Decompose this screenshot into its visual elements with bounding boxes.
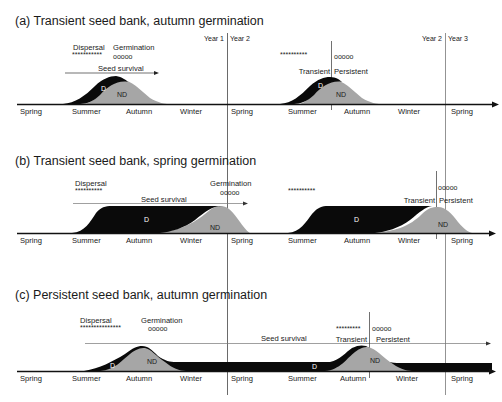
panel-a-title: (a) Transient seed bank, autumn germinat… [15,14,264,28]
seed-bank-diagram: Year 1 Year 2 Year 2 Year 3 (a) Transien… [0,0,502,402]
svg-text:Summer: Summer [72,236,101,245]
svg-text:Autumn: Autumn [126,374,152,383]
svg-text:Spring: Spring [231,236,253,245]
svg-text:Autumn: Autumn [126,107,152,116]
nd-label-2: ND [336,91,346,98]
germination-label: Germination [113,43,154,52]
panel-c: (c) Persistent seed bank, autumn germina… [15,288,496,383]
panel-b-title: (b) Transient seed bank, spring germinat… [15,154,256,168]
svg-text:Autumn: Autumn [340,374,366,383]
persistent-label: Persistent [376,335,411,344]
nd-label-1: ND [117,91,127,98]
nd-label-1: ND [147,358,157,365]
svg-text:Spring: Spring [20,107,42,116]
svg-text:Spring: Spring [451,374,473,383]
seed-survival-label: Seed survival [98,64,144,73]
germination-mark: ooooo [113,53,133,60]
transient-label: Transient [299,67,331,76]
transient-label: Transient [336,335,368,344]
germination-mark: ooooo [220,189,240,196]
d-label-2: D [318,82,323,89]
year1-label: Year 1 [204,35,224,42]
svg-text:Spring: Spring [231,107,253,116]
panel-c-title: (c) Persistent seed bank, autumn germina… [15,288,267,302]
season-labels-b: Spring Summer Autumn Winter Spring Summe… [20,236,473,245]
year2-dispersal-mark: ********** [280,51,308,58]
persistent-label: Persistent [334,67,369,76]
year2-dispersal-mark: ********** [288,187,316,194]
svg-text:Summer: Summer [288,107,317,116]
dispersal-mark: ********** [75,187,103,194]
persistent-label: Persistent [439,196,474,205]
svg-text:Winter: Winter [398,236,420,245]
svg-text:Summer: Summer [288,236,317,245]
d-label-2: D [354,216,359,223]
seed-survival-label: Seed survival [141,195,187,204]
transient-label: Transient [404,196,436,205]
svg-text:Summer: Summer [288,374,317,383]
germination-label: Germination [210,179,251,188]
svg-text:Autumn: Autumn [126,236,152,245]
svg-text:Summer: Summer [72,107,101,116]
svg-text:Summer: Summer [72,374,101,383]
year2-germination-mark: ooooo [438,184,458,191]
dispersal-mark: *********** [72,51,102,58]
svg-text:Spring: Spring [20,374,42,383]
season-labels-a: Spring Summer Autumn Winter Spring Summe… [20,107,473,116]
svg-text:Autumn: Autumn [344,236,370,245]
svg-text:Spring: Spring [231,374,253,383]
svg-text:Winter: Winter [398,107,420,116]
panel-b: (b) Transient seed bank, spring germinat… [15,154,496,245]
svg-text:Winter: Winter [180,236,202,245]
year2-dispersal-mark: ********* [336,325,361,332]
svg-text:Spring: Spring [20,236,42,245]
year2-germination-mark: ooooo [372,325,392,332]
germination-label: Germination [141,316,182,325]
year2-germination-mark: ooooo [334,53,354,60]
dispersal-mark: *************** [80,324,121,331]
d-label-2: D [312,363,317,370]
svg-text:Autumn: Autumn [344,107,370,116]
d-label-1: D [110,362,115,369]
season-labels-c: Spring Summer Autumn Winter Spring Summe… [20,374,473,383]
svg-text:Winter: Winter [180,374,202,383]
d-label-1: D [144,216,149,223]
nd-label-1: ND [210,224,220,231]
seed-survival-label: Seed survival [261,334,307,343]
year3-label: Year 3 [448,35,468,42]
svg-text:Spring: Spring [451,236,473,245]
d-label-1: D [101,85,106,92]
svg-text:Spring: Spring [451,107,473,116]
germination-mark: ooooo [148,325,168,332]
svg-text:Winter: Winter [396,374,418,383]
year2-label-b: Year 2 [422,35,442,42]
nd-label-2: ND [438,221,448,228]
year2-label: Year 2 [230,35,250,42]
svg-text:Winter: Winter [180,107,202,116]
panel-a: (a) Transient seed bank, autumn germinat… [15,14,499,116]
nd-label-2: ND [370,357,380,364]
